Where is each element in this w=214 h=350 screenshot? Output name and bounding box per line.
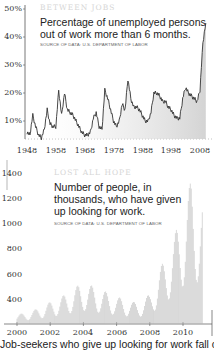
x-tick-1998: 1998 — [161, 146, 181, 155]
chart-kicker: BETWEEN JOBS — [40, 3, 115, 12]
y-tick-400: 400 — [0, 295, 22, 304]
chart-title-line-2: thousands, who have given — [54, 193, 181, 205]
y-tick-1400: 1400 — [0, 169, 22, 178]
chart-title-line-1: Number of people, in — [54, 181, 151, 193]
y-tick-30: 30% — [0, 60, 22, 69]
x-tick-2010: 2010 — [173, 328, 193, 337]
chart-panel-between-jobs: 50% 40% 30% 20% 10% BETWEEN JOBS Percent… — [0, 0, 214, 160]
x-tick-1958: 1958 — [46, 146, 66, 155]
chart-title-line-2: out of work more than 6 months. — [40, 28, 191, 40]
chart-title-line-1: Percentage of unemployed persons — [40, 16, 206, 28]
x-tick-1948: 1948 — [17, 146, 37, 155]
y-tick-800: 800 — [0, 244, 22, 253]
x-tick-2006: 2006 — [107, 328, 127, 337]
chart-source: SOURCE OF DATA: U.S. Department of Labor — [40, 42, 148, 47]
x-tick-2008: 2008 — [140, 328, 160, 337]
x-tick-2000: 2000 — [7, 328, 27, 337]
x-tick-1968: 1968 — [75, 146, 95, 155]
x-tick-2008: 2008 — [190, 146, 210, 155]
y-tick-50: 50% — [0, 4, 22, 13]
y-tick-1000: 1000 — [0, 219, 22, 228]
chart-kicker: LOST ALL HOPE — [54, 168, 132, 177]
article-caption: Job-seekers who give up looking for work… — [0, 338, 214, 350]
x-tick-2004: 2004 — [73, 328, 93, 337]
y-tick-10: 10% — [0, 116, 22, 125]
chart-panel-lost-all-hope: 1400 1200 1000 800 600 400 LOST ALL HOPE… — [0, 160, 214, 338]
chart-title-line-3: up looking for work. — [54, 205, 145, 217]
y-tick-600: 600 — [0, 270, 22, 279]
x-tick-2002: 2002 — [40, 328, 60, 337]
x-tick-1978: 1978 — [104, 146, 124, 155]
chart-source: SOURCE OF DATA: U.S. Department of Labor — [54, 221, 162, 226]
y-tick-20: 20% — [0, 88, 22, 97]
y-tick-40: 40% — [0, 32, 22, 41]
y-tick-1200: 1200 — [0, 194, 22, 203]
x-tick-1988: 1988 — [133, 146, 153, 155]
